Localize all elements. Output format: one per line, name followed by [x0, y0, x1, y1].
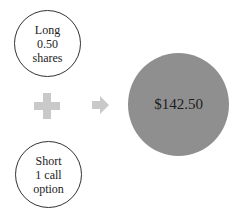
node-line: option — [33, 182, 64, 196]
node-line: Long — [35, 23, 60, 37]
arrow-right-icon — [92, 96, 109, 114]
node-line: 0.50 — [37, 37, 58, 51]
short-call-node: Short 1 call option — [15, 141, 82, 208]
long-shares-node: Long 0.50 shares — [14, 10, 81, 77]
node-line: 1 call — [35, 168, 61, 182]
result-value: $142.50 — [154, 96, 203, 113]
node-line: shares — [33, 51, 63, 65]
plus-icon — [34, 93, 60, 119]
node-line: Short — [35, 154, 61, 168]
result-value-node: $142.50 — [128, 53, 229, 156]
